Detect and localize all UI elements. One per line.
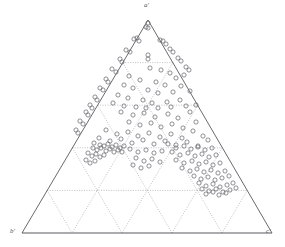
data-point-marker: [154, 80, 158, 84]
data-point-marker: [225, 183, 229, 187]
data-point-marker: [204, 160, 208, 164]
data-point-marker: [182, 73, 186, 77]
data-point-marker: [169, 105, 173, 109]
grid-line-left-leaning: [47, 190, 72, 233]
data-point-marker: [199, 177, 203, 181]
data-point-marker: [98, 86, 102, 90]
data-point-marker: [146, 88, 150, 92]
data-point-marker: [163, 83, 167, 87]
data-point-marker: [182, 161, 186, 165]
data-point-marker: [119, 137, 123, 141]
data-point-marker: [94, 152, 98, 156]
data-point-marker: [179, 59, 183, 63]
data-point-marker: [228, 188, 232, 192]
data-point-marker: [153, 115, 157, 119]
data-point-marker: [187, 68, 191, 72]
data-point-marker: [141, 98, 145, 102]
data-point-marker: [110, 67, 114, 71]
data-point-marker: [147, 131, 151, 135]
data-point-marker: [204, 184, 208, 188]
data-point-marker: [186, 151, 190, 155]
data-point-marker: [126, 96, 130, 100]
data-point-marker: [146, 57, 150, 61]
data-point-marker: [190, 159, 194, 163]
vertex-label-c: c': [266, 228, 271, 235]
data-point-marker: [134, 156, 138, 160]
data-point-marker: [213, 178, 217, 182]
data-point-marker: [139, 166, 143, 170]
data-point-marker: [149, 121, 153, 125]
data-point-marker: [165, 100, 169, 104]
data-point-marker: [159, 68, 163, 72]
data-point-marker: [118, 57, 122, 61]
data-point-marker: [195, 167, 199, 171]
data-point-marker: [86, 113, 90, 117]
data-point-marker: [206, 175, 210, 179]
data-point-marker: [74, 128, 78, 132]
data-point-marker: [131, 86, 135, 90]
data-point-marker: [141, 138, 145, 142]
data-point-marker: [130, 141, 134, 145]
data-point-marker: [174, 158, 178, 162]
data-point-marker: [166, 142, 170, 146]
data-point-marker: [122, 144, 126, 148]
triangle-edge-left: [22, 20, 148, 233]
data-point-marker: [211, 182, 215, 186]
grid-line-right-leaning: [122, 105, 198, 233]
data-point-marker: [197, 181, 201, 185]
data-point-marker: [104, 128, 108, 132]
data-point-marker: [200, 152, 204, 156]
data-point-marker: [185, 140, 189, 144]
data-point-marker: [168, 71, 172, 75]
data-point-marker: [93, 95, 97, 99]
data-point-marker: [144, 106, 148, 110]
data-point-marker: [171, 90, 175, 94]
data-point-marker: [102, 153, 106, 157]
data-point-marker: [122, 104, 126, 108]
data-point-marker: [217, 193, 221, 197]
triangle-outline-group: [22, 20, 272, 233]
data-point-marker: [204, 192, 208, 196]
data-point-marker: [134, 105, 138, 109]
data-point-marker: [95, 148, 99, 152]
data-point-marker: [220, 176, 224, 180]
data-points-group: [74, 21, 238, 197]
data-point-marker: [84, 110, 88, 114]
data-point-marker: [90, 154, 94, 158]
data-point-marker: [182, 144, 186, 148]
data-point-marker: [126, 130, 130, 134]
data-point-marker: [127, 120, 131, 124]
data-point-marker: [194, 120, 198, 124]
data-point-marker: [124, 48, 128, 52]
data-point-marker: [203, 148, 207, 152]
data-point-marker: [98, 155, 102, 159]
data-point-marker: [90, 106, 94, 110]
data-point-marker: [88, 103, 92, 107]
data-point-marker: [202, 170, 206, 174]
data-point-marker: [146, 53, 150, 57]
data-point-marker: [142, 159, 146, 163]
data-point-marker: [218, 185, 222, 189]
data-point-marker: [211, 190, 215, 194]
data-point-marker: [171, 50, 175, 54]
data-point-marker: [147, 164, 151, 168]
data-point-marker: [211, 163, 215, 167]
data-point-marker: [97, 136, 101, 140]
data-point-marker: [120, 150, 124, 154]
data-point-marker: [116, 93, 120, 97]
data-point-marker: [137, 39, 141, 43]
data-point-marker: [95, 98, 99, 102]
data-point-marker: [101, 88, 105, 92]
data-point-marker: [193, 154, 197, 158]
data-point-marker: [112, 150, 116, 154]
data-point-marker: [86, 151, 90, 155]
data-point-marker: [108, 139, 112, 143]
data-point-marker: [184, 104, 188, 108]
grid-line-left-leaning: [123, 63, 222, 233]
data-point-marker: [181, 126, 185, 130]
data-point-marker: [231, 181, 235, 185]
data-point-marker: [136, 134, 140, 138]
data-point-marker: [160, 149, 164, 153]
data-point-marker: [156, 91, 160, 95]
data-point-marker: [169, 132, 173, 136]
